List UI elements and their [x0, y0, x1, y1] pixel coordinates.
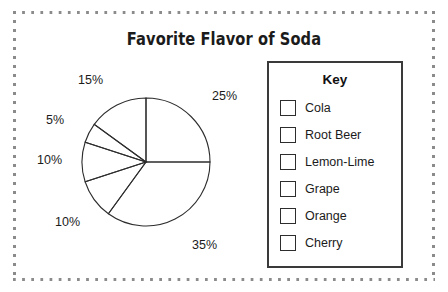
legend-item-lemon-lime[interactable]: Lemon-Lime: [280, 148, 401, 175]
legend-item-cola[interactable]: Cola: [280, 94, 401, 121]
legend-swatch-icon: [280, 127, 296, 143]
pie-label-grape-percent: 10%: [37, 153, 62, 167]
pie-label-root-beer-percent: 35%: [192, 238, 217, 252]
pie-slice-root-beer: [108, 162, 210, 226]
pie-label-cherry-percent: 15%: [78, 73, 103, 87]
dotted-border-left: [13, 11, 16, 281]
legend-key-box: Key Cola Root Beer Lemon-Lime Grape Oran…: [267, 61, 403, 268]
legend-item-label: Grape: [305, 182, 340, 196]
legend-item-label: Cola: [305, 101, 331, 115]
legend-item-cherry[interactable]: Cherry: [280, 229, 401, 256]
worksheet-page: Favorite Flavor of Soda 25% 35% 10% 10% …: [0, 0, 448, 292]
legend-item-label: Root Beer: [305, 128, 361, 142]
dotted-border-top: [13, 11, 435, 14]
legend-swatch-icon: [280, 154, 296, 170]
legend-swatch-icon: [280, 208, 296, 224]
page-title: Favorite Flavor of Soda: [16, 29, 433, 49]
pie-slice-cola: [146, 98, 210, 162]
pie-slice-lemon-lime: [85, 162, 146, 214]
pie-slice-cherry: [94, 98, 146, 162]
legend-swatch-icon: [280, 235, 296, 251]
dotted-border-bottom: [13, 278, 435, 281]
pie-chart: 25% 35% 10% 10% 5% 15%: [60, 72, 240, 258]
legend-item-grape[interactable]: Grape: [280, 175, 401, 202]
pie-label-cola-percent: 25%: [212, 89, 237, 103]
legend-item-label: Orange: [305, 209, 347, 223]
legend-item-orange[interactable]: Orange: [280, 202, 401, 229]
pie-slice-orange: [85, 124, 146, 162]
pie-label-lemon-lime-percent: 10%: [55, 215, 80, 229]
legend-item-label: Cherry: [305, 236, 343, 250]
legend-item-label: Lemon-Lime: [305, 155, 374, 169]
pie-label-orange-percent: 5%: [46, 113, 64, 127]
pie-slices: [82, 98, 210, 226]
dotted-border-right: [432, 11, 435, 281]
legend-item-root-beer[interactable]: Root Beer: [280, 121, 401, 148]
legend-title: Key: [269, 72, 401, 87]
legend-swatch-icon: [280, 100, 296, 116]
legend-list: Cola Root Beer Lemon-Lime Grape Orange C…: [269, 94, 401, 256]
legend-swatch-icon: [280, 181, 296, 197]
